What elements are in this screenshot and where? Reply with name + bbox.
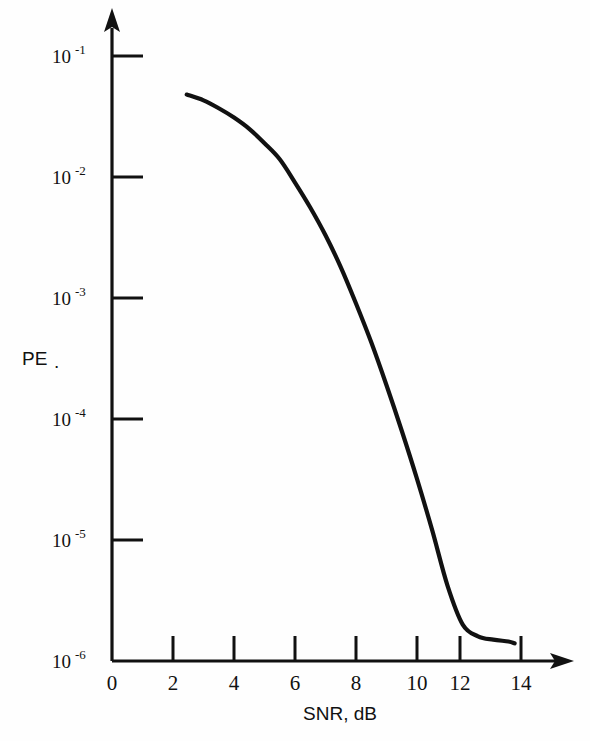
y-tick-label-1e-6-exponent: -6 [75, 647, 86, 662]
x-axis-label: SNR, dB [303, 703, 377, 724]
data-series-curve [187, 95, 515, 644]
x-tick-label-2: 2 [168, 671, 179, 695]
y-tick-label-1e-2-exponent: -2 [75, 163, 86, 178]
x-tick-label-14: 14 [511, 671, 533, 695]
semilog-plot: 10 -1 10 -2 10 -3 10 -4 10 -5 10 -6 0 [0, 0, 590, 741]
x-tick-label-0: 0 [107, 671, 118, 695]
y-tick-label-1e-4-mantissa: 10 [52, 409, 71, 430]
x-axis-tick-labels: 0 2 4 6 8 10 12 14 [107, 671, 532, 695]
y-tick-label-1e-5-exponent: -5 [75, 526, 86, 541]
y-axis-label-text: PE [22, 348, 47, 369]
y-tick-label-1e-2-mantissa: 10 [52, 167, 71, 188]
y-axis-label: PE . [22, 348, 59, 372]
x-axis-ticks [173, 636, 521, 661]
y-tick-label-1e-4-exponent: -4 [75, 405, 86, 420]
x-tick-label-10: 10 [407, 671, 428, 695]
y-tick-label-1e-3-exponent: -3 [75, 284, 86, 299]
x-tick-label-4: 4 [229, 671, 240, 695]
y-axis-label-suffix: . [54, 351, 59, 372]
y-tick-label-1e-5-mantissa: 10 [52, 530, 71, 551]
figure-canvas: 10 -1 10 -2 10 -3 10 -4 10 -5 10 -6 0 [0, 0, 590, 741]
y-tick-label-1e-1-exponent: -1 [75, 42, 86, 57]
y-axis-ticks [112, 56, 143, 540]
x-tick-label-12: 12 [450, 671, 471, 695]
y-tick-label-1e-1-mantissa: 10 [52, 46, 71, 67]
x-tick-label-6: 6 [290, 671, 301, 695]
x-tick-label-8: 8 [351, 671, 362, 695]
y-tick-label-1e-3-mantissa: 10 [52, 288, 71, 309]
y-tick-label-1e-6-mantissa: 10 [52, 651, 71, 672]
